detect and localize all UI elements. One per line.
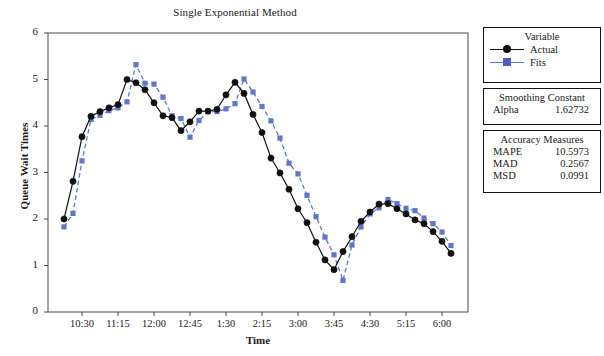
- data-point-fits: [178, 116, 183, 121]
- data-point-fits: [250, 89, 255, 94]
- data-point-actual: [403, 211, 409, 217]
- legend-label-fits: Fits: [524, 57, 546, 68]
- legend-label-actual: Actual: [524, 44, 558, 55]
- smoothing-key-alpha: Alpha: [493, 104, 541, 115]
- data-point-fits: [430, 221, 435, 226]
- series-line-actual: [64, 80, 451, 270]
- data-point-actual: [241, 90, 247, 96]
- data-point-fits: [241, 76, 246, 81]
- data-point-actual: [331, 267, 337, 273]
- data-point-fits: [124, 99, 129, 104]
- data-point-actual: [295, 206, 301, 212]
- data-point-actual: [133, 80, 139, 86]
- data-point-actual: [376, 201, 382, 207]
- y-tick-label: 4: [12, 118, 38, 130]
- legend-item-actual[interactable]: Actual: [484, 43, 600, 55]
- accuracy-value-mad: 0.2567: [541, 158, 600, 169]
- data-point-actual: [430, 228, 436, 234]
- y-tick-label: 1: [12, 258, 38, 270]
- accuracy-value-msd: 0.0991: [541, 170, 600, 181]
- data-point-actual: [286, 186, 292, 192]
- data-point-fits: [151, 82, 156, 87]
- data-point-fits: [259, 104, 264, 109]
- legend-heading: Variable: [484, 31, 600, 42]
- data-point-actual: [439, 238, 445, 244]
- data-point-actual: [223, 92, 229, 98]
- y-tick-label: 3: [12, 165, 38, 177]
- accuracy-key-mape: MAPE: [493, 146, 541, 157]
- y-tick-label: 0: [12, 304, 38, 316]
- data-point-fits: [277, 135, 282, 140]
- y-tick-label: 6: [12, 25, 38, 37]
- data-point-actual: [196, 108, 202, 114]
- data-point-actual: [70, 178, 76, 184]
- data-point-fits: [340, 278, 345, 283]
- data-point-actual: [358, 218, 364, 224]
- data-point-actual: [178, 128, 184, 134]
- data-point-fits: [268, 118, 273, 123]
- accuracy-heading: Accuracy Measures: [484, 134, 600, 145]
- smoothing-value-alpha: 1.62732: [541, 104, 600, 115]
- accuracy-measures-panel: Accuracy Measures MAPE 10.5973 MAD 0.256…: [483, 130, 601, 193]
- data-point-actual: [79, 134, 85, 140]
- data-point-fits: [403, 206, 408, 211]
- smoothing-row-alpha: Alpha 1.62732: [484, 104, 600, 115]
- data-point-actual: [268, 155, 274, 161]
- data-point-fits: [196, 118, 201, 123]
- data-point-fits: [223, 106, 228, 111]
- data-point-actual: [124, 76, 130, 82]
- smoothing-heading: Smoothing Constant: [484, 92, 600, 103]
- data-point-fits: [448, 243, 453, 248]
- data-point-fits: [295, 171, 300, 176]
- data-point-actual: [313, 239, 319, 245]
- data-point-actual: [232, 79, 238, 85]
- data-point-fits: [304, 193, 309, 198]
- square-marker-icon: [490, 56, 524, 68]
- data-point-fits: [232, 101, 237, 106]
- data-point-actual: [349, 234, 355, 240]
- data-point-fits: [187, 135, 192, 140]
- data-point-actual: [61, 216, 67, 222]
- data-point-actual: [385, 201, 391, 207]
- data-point-actual: [394, 206, 400, 212]
- y-tick-label: 2: [12, 211, 38, 223]
- accuracy-row-mape: MAPE 10.5973: [484, 146, 600, 157]
- data-point-actual: [448, 250, 454, 256]
- data-point-actual: [367, 209, 373, 215]
- data-point-fits: [61, 224, 66, 229]
- data-point-fits: [349, 242, 354, 247]
- series-line-fits: [64, 65, 451, 281]
- data-point-actual: [169, 115, 175, 121]
- data-point-fits: [412, 208, 417, 213]
- accuracy-key-mad: MAD: [493, 158, 541, 169]
- accuracy-row-msd: MSD 0.0991: [484, 170, 600, 181]
- smoothing-constant-panel: Smoothing Constant Alpha 1.62732: [483, 88, 601, 125]
- data-point-fits: [313, 214, 318, 219]
- data-point-actual: [97, 108, 103, 114]
- data-point-actual: [340, 248, 346, 254]
- data-point-actual: [250, 111, 256, 117]
- x-tick-label: 6:00: [412, 318, 472, 329]
- data-point-fits: [421, 215, 426, 220]
- chart-container: Single Exponential Method Queue Wait Tim…: [0, 0, 604, 356]
- accuracy-value-mape: 10.5973: [541, 146, 600, 157]
- data-point-fits: [70, 211, 75, 216]
- data-point-fits: [286, 161, 291, 166]
- data-point-actual: [142, 87, 148, 93]
- data-point-actual: [277, 170, 283, 176]
- data-point-actual: [187, 119, 193, 125]
- data-point-fits: [322, 235, 327, 240]
- data-point-fits: [79, 158, 84, 163]
- data-point-actual: [115, 102, 121, 108]
- data-point-actual: [412, 217, 418, 223]
- data-point-actual: [322, 257, 328, 263]
- data-point-actual: [106, 105, 112, 111]
- legend-item-fits[interactable]: Fits: [484, 56, 600, 68]
- y-tick-label: 5: [12, 72, 38, 84]
- data-point-actual: [88, 113, 94, 119]
- data-point-actual: [304, 220, 310, 226]
- data-point-actual: [214, 106, 220, 112]
- data-point-fits: [331, 252, 336, 257]
- data-point-actual: [160, 113, 166, 119]
- circle-marker-icon: [490, 43, 524, 55]
